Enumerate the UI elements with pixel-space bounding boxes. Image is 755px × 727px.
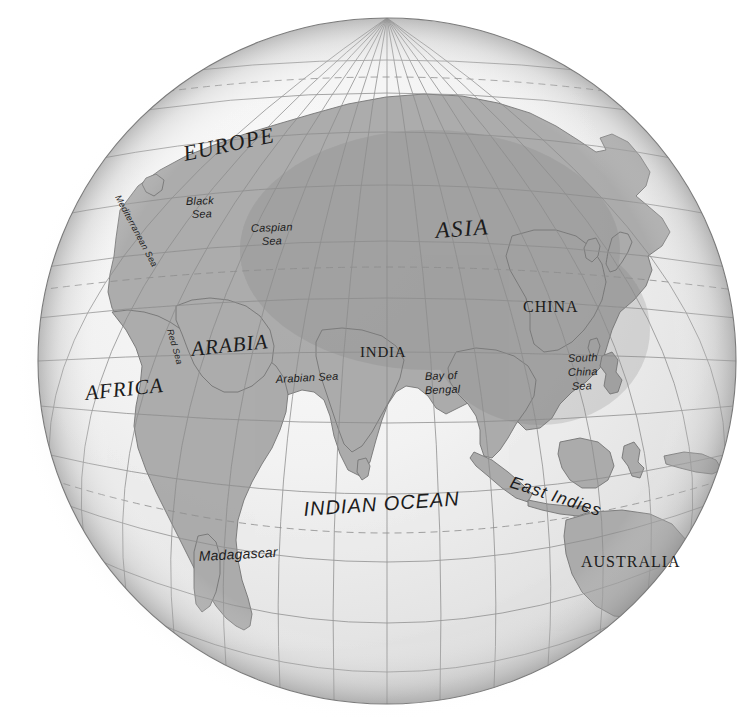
- bay-of-bengal-label-line1: Bay of: [425, 369, 459, 382]
- globe-map-page: EUROPEASIAAFRICAARABIACHINAINDIAAUSTRALI…: [0, 0, 755, 727]
- india-label: INDIA: [360, 344, 407, 360]
- black-sea-label-line1: Black: [186, 194, 215, 207]
- globe-illustration: EUROPEASIAAFRICAARABIACHINAINDIAAUSTRALI…: [0, 0, 755, 727]
- black-sea-label-line2: Sea: [192, 207, 213, 220]
- south-china-sea-label-line1: South: [568, 351, 598, 364]
- asia-label: ASIA: [433, 214, 490, 243]
- caspian-sea-label-line1: Caspian: [251, 221, 293, 234]
- bay-of-bengal-label-line2: Bengal: [425, 383, 461, 396]
- china-label: CHINA: [523, 298, 579, 315]
- globe-svg: EUROPEASIAAFRICAARABIACHINAINDIAAUSTRALI…: [0, 0, 755, 727]
- south-china-sea-label-line2: China: [568, 365, 598, 378]
- south-china-sea-label-line3: Sea: [572, 379, 593, 392]
- globe-limb-shading: [38, 18, 736, 704]
- caspian-sea-label-line2: Sea: [262, 234, 283, 247]
- australia-label: AUSTRALIA: [581, 553, 681, 570]
